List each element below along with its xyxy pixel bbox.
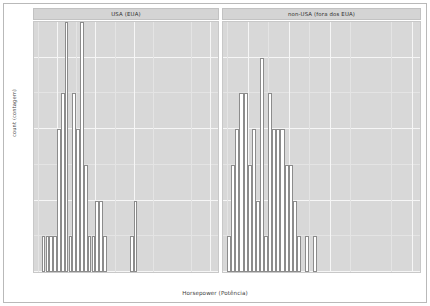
y-axis-tick-mark	[33, 128, 34, 129]
facet-strip-usa: USA (EUA)	[33, 8, 219, 20]
histogram-bar	[134, 201, 138, 272]
chart-root: count (contagem) Horsepower (Potência) U…	[0, 0, 430, 306]
y-axis-tick-mark	[33, 271, 34, 272]
x-axis-tick-mark	[330, 272, 331, 273]
grid-line-vertical	[210, 22, 211, 272]
facet-panel-nonusa: non-USA (fora dos EUA) 100200300500	[222, 8, 421, 273]
x-axis-tick-mark	[248, 272, 249, 273]
x-axis-title: Horsepower (Potência)	[0, 290, 430, 296]
x-axis-tick-mark	[412, 272, 413, 273]
y-axis-tick-mark	[33, 199, 34, 200]
grid-line-vertical-minor	[38, 22, 39, 272]
grid-line-vertical	[330, 22, 331, 272]
grid-line-vertical-minor	[115, 22, 116, 272]
facet-panel-usa: USA (EUA) 0246100200300500	[33, 8, 219, 273]
histogram-bar	[305, 236, 309, 272]
y-axis-tick-mark	[33, 56, 34, 57]
x-axis-tick-mark	[289, 272, 290, 273]
x-axis-tick-mark	[95, 272, 96, 273]
histogram-bar	[65, 22, 69, 272]
facet-strip-label-nonusa: non-USA (fora dos EUA)	[288, 11, 355, 17]
grid-line-vertical	[412, 22, 413, 272]
x-axis-tick-mark	[134, 272, 135, 273]
grid-line-vertical-minor	[191, 22, 192, 272]
facet-strip-label-usa: USA (EUA)	[111, 11, 140, 17]
x-axis-tick-mark	[57, 272, 58, 273]
histogram-bar	[103, 236, 107, 272]
facet-strip-nonusa: non-USA (fora dos EUA)	[222, 8, 421, 20]
histogram-bar	[313, 236, 317, 272]
x-axis-tick-mark	[210, 272, 211, 273]
grid-line-vertical-minor	[391, 22, 392, 272]
grid-line-vertical-minor	[227, 22, 228, 272]
histogram-bar	[297, 236, 301, 272]
plot-area-usa: 0246100200300500	[33, 21, 219, 273]
plot-area-nonusa: 100200300500	[222, 21, 421, 273]
grid-line-vertical-minor	[350, 22, 351, 272]
grid-line-vertical-minor	[153, 22, 154, 272]
y-axis-title: count (contagem)	[11, 68, 17, 158]
grid-line-vertical-minor	[309, 22, 310, 272]
